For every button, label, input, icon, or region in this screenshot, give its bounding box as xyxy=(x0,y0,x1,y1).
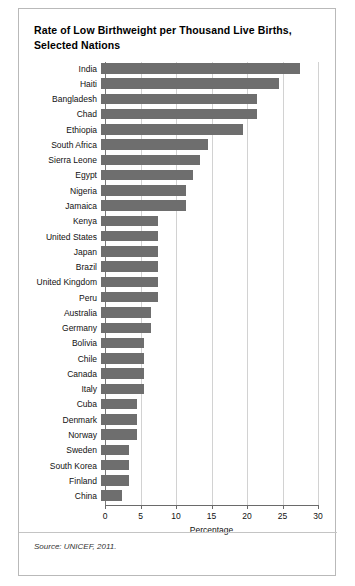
bar-rows: IndiaHaitiBangladeshChadEthiopiaSouth Af… xyxy=(19,61,337,504)
bar xyxy=(101,475,129,486)
bar xyxy=(101,185,186,196)
bar-row: Chad xyxy=(19,107,337,122)
bar xyxy=(101,445,129,456)
bar-track xyxy=(101,397,337,412)
bar xyxy=(101,124,243,135)
bar-row: South Africa xyxy=(19,137,337,152)
category-label: Ethiopia xyxy=(19,125,101,135)
category-label: Kenya xyxy=(19,216,101,226)
bar-row: United Kingdom xyxy=(19,275,337,290)
bar-row: Ethiopia xyxy=(19,122,337,137)
x-tick xyxy=(176,505,177,509)
bar-track xyxy=(101,229,337,244)
category-label: Italy xyxy=(19,384,101,394)
bar-row: Haiti xyxy=(19,76,337,91)
bar-row: Bangladesh xyxy=(19,92,337,107)
category-label: China xyxy=(19,491,101,501)
x-tick-label: 0 xyxy=(103,511,108,521)
bar xyxy=(101,292,158,303)
bar xyxy=(101,429,137,440)
bar-track xyxy=(101,168,337,183)
bar-row: Jamaica xyxy=(19,198,337,213)
bar-track xyxy=(101,107,337,122)
bar-row: Nigeria xyxy=(19,183,337,198)
category-label: Canada xyxy=(19,369,101,379)
category-label: Brazil xyxy=(19,262,101,272)
source-note: Source: UNICEF, 2011. xyxy=(34,542,116,551)
category-label: Germany xyxy=(19,323,101,333)
category-label: Cuba xyxy=(19,399,101,409)
bar-track xyxy=(101,366,337,381)
category-label: Peru xyxy=(19,293,101,303)
bar-row: Cuba xyxy=(19,397,337,412)
bar-row: Kenya xyxy=(19,214,337,229)
x-tick-label: 25 xyxy=(278,511,287,521)
bar-track xyxy=(101,351,337,366)
bar xyxy=(101,78,279,89)
bar xyxy=(101,368,144,379)
bar-row: Brazil xyxy=(19,259,337,274)
bar-track xyxy=(101,259,337,274)
bar xyxy=(101,460,129,471)
bar-track xyxy=(101,92,337,107)
bar xyxy=(101,384,144,395)
bar-track xyxy=(101,183,337,198)
bar-row: Sierra Leone xyxy=(19,153,337,168)
bar-row: South Korea xyxy=(19,458,337,473)
bar xyxy=(101,170,193,181)
x-tick xyxy=(212,505,213,509)
bar-track xyxy=(101,122,337,137)
bar-track xyxy=(101,153,337,168)
source-divider xyxy=(19,532,337,533)
category-label: United Kingdom xyxy=(19,277,101,287)
bar xyxy=(101,246,158,257)
category-label: Norway xyxy=(19,430,101,440)
bar-track xyxy=(101,198,337,213)
bar-track xyxy=(101,488,337,503)
x-tick-label: 5 xyxy=(138,511,143,521)
bar xyxy=(101,231,158,242)
bar-row: Chile xyxy=(19,351,337,366)
bar-row: Peru xyxy=(19,290,337,305)
category-label: Australia xyxy=(19,308,101,318)
bar xyxy=(101,63,300,74)
category-label: Finland xyxy=(19,476,101,486)
bar-track xyxy=(101,305,337,320)
bar-track xyxy=(101,76,337,91)
bar-track xyxy=(101,458,337,473)
category-label: Jamaica xyxy=(19,201,101,211)
bar xyxy=(101,323,151,334)
bar-track xyxy=(101,137,337,152)
x-tick xyxy=(247,505,248,509)
bar-track xyxy=(101,275,337,290)
bar-row: Canada xyxy=(19,366,337,381)
category-label: Sierra Leone xyxy=(19,155,101,165)
bar-track xyxy=(101,427,337,442)
category-label: United States xyxy=(19,232,101,242)
category-label: Bangladesh xyxy=(19,94,101,104)
bar-track xyxy=(101,473,337,488)
x-tick xyxy=(141,505,142,509)
chart-title: Rate of Low Birthweight per Thousand Liv… xyxy=(34,23,324,53)
bar xyxy=(101,414,137,425)
bar-row: Norway xyxy=(19,427,337,442)
category-label: South Korea xyxy=(19,461,101,471)
x-axis-label: Percentage xyxy=(105,525,318,535)
bar xyxy=(101,109,257,120)
bar-track xyxy=(101,321,337,336)
x-tick xyxy=(105,505,106,509)
bar-track xyxy=(101,244,337,259)
category-label: Chad xyxy=(19,109,101,119)
bar-track xyxy=(101,290,337,305)
category-label: South Africa xyxy=(19,140,101,150)
x-tick-label: 20 xyxy=(242,511,251,521)
bar-track xyxy=(101,412,337,427)
bar xyxy=(101,261,158,272)
bar-track xyxy=(101,214,337,229)
bar xyxy=(101,277,158,288)
category-label: Chile xyxy=(19,354,101,364)
bar-row: Denmark xyxy=(19,412,337,427)
category-label: Nigeria xyxy=(19,186,101,196)
category-label: Japan xyxy=(19,247,101,257)
category-label: Denmark xyxy=(19,415,101,425)
